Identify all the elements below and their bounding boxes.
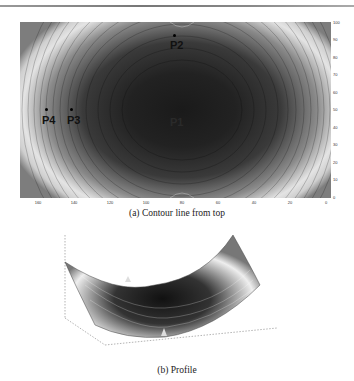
x-tick: 40 [252, 200, 256, 205]
x-tick: 100 [143, 200, 150, 205]
point-p4-marker [45, 108, 48, 111]
x-tick: 160 [35, 200, 42, 205]
x-tick: 60 [216, 200, 220, 205]
y-tick: 0 [333, 195, 335, 200]
y-tick: 20 [333, 160, 337, 165]
y-tick: 100 [333, 20, 340, 25]
point-p3-marker [70, 108, 73, 111]
point-p2-marker [173, 34, 176, 37]
x-tick: 0 [325, 200, 327, 205]
x-tick: 140 [71, 200, 78, 205]
figure-a-caption: (a) Contour line from top [0, 208, 354, 218]
point-p2-label: P2 [170, 39, 183, 51]
y-tick: 50 [333, 107, 337, 112]
y-tick: 60 [333, 90, 337, 95]
point-p4-label: P4 [42, 114, 55, 126]
figure-b-caption: (b) Profile [0, 365, 354, 375]
x-tick: 120 [107, 200, 114, 205]
x-tick: 20 [288, 200, 292, 205]
surface-plot [55, 230, 305, 360]
x-tick: 80 [180, 200, 184, 205]
y-tick: 70 [333, 72, 337, 77]
y-tick: 30 [333, 142, 337, 147]
y-tick: 90 [333, 37, 337, 42]
y-tick: 10 [333, 177, 337, 182]
surface-graphic [55, 230, 305, 360]
y-tick: 40 [333, 125, 337, 130]
point-p3-label: P3 [67, 114, 80, 126]
point-p1-label: P1 [170, 116, 183, 128]
y-tick: 80 [333, 55, 337, 60]
header-rule [0, 5, 354, 7]
